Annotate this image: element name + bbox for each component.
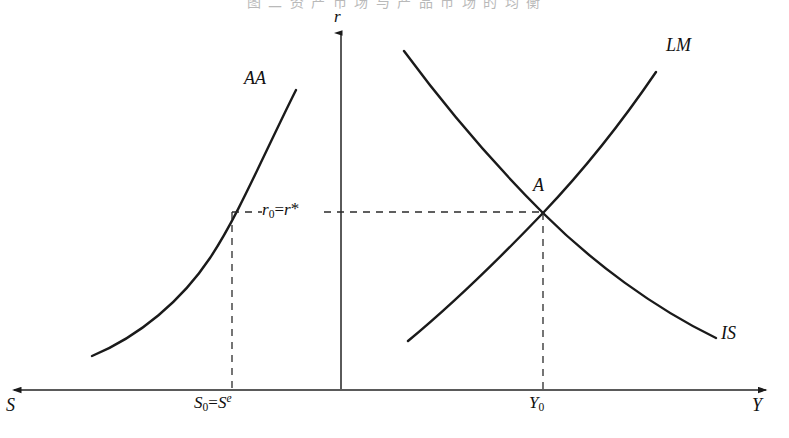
curve-label-aa: AA — [244, 69, 266, 87]
economics-diagram-figure: 图 二 资 产 市 场 与 产 品 市 场 的 均 衡 — [0, 0, 789, 438]
diagram-canvas — [0, 0, 789, 438]
r-star-base: r — [284, 200, 291, 219]
equals-sign-saving: = — [208, 393, 218, 412]
se-superscript: e — [226, 392, 231, 405]
asterisk-glyph: * — [291, 199, 300, 218]
horizontal-axis-right-label: Y — [752, 396, 762, 414]
curve-label-lm: LM — [666, 36, 691, 54]
y0-subscript: 0 — [538, 401, 544, 414]
curve-lm — [408, 72, 656, 341]
curve-label-is: IS — [721, 324, 736, 342]
curve-aa — [92, 90, 296, 356]
r0-base: r — [262, 200, 269, 219]
equals-sign-rate: = — [274, 200, 284, 219]
vertical-axis-label: r — [334, 8, 341, 25]
s0-base: S — [194, 393, 203, 412]
equilibrium-point-label: A — [533, 176, 544, 194]
tick-label-output: Y0 — [529, 394, 544, 411]
tick-label-saving: S0=Se — [194, 394, 232, 411]
horizontal-axis-left-label: S — [6, 396, 15, 414]
equilibrium-rate-label: r0=r* — [262, 200, 299, 218]
